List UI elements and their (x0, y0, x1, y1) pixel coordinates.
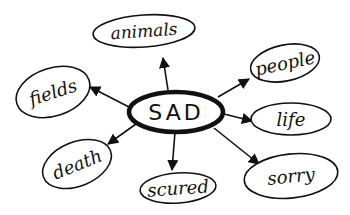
center-node-label: SAD (148, 100, 203, 125)
mind-map: animalspeoplelifesorryscureddeathfields … (0, 0, 350, 215)
node-sorry: sorry (242, 149, 340, 203)
arrow-to-death (108, 124, 136, 144)
node-scured: scured (139, 170, 217, 205)
node-life: life (251, 103, 331, 135)
node-fields: fields (9, 57, 96, 126)
arrow-to-people (218, 79, 249, 97)
node-label: scured (146, 175, 209, 200)
node-animals: animals (92, 11, 196, 50)
arrow-to-scured (172, 132, 175, 170)
arrow-to-fields (90, 87, 129, 107)
arrow-to-animals (163, 58, 168, 90)
node-label: life (277, 109, 306, 130)
arrow-to-life (224, 114, 252, 121)
arrow-to-sorry (214, 128, 259, 164)
node-people: people (247, 38, 323, 88)
center-node: SAD (129, 92, 223, 132)
node-death: death (35, 130, 118, 198)
